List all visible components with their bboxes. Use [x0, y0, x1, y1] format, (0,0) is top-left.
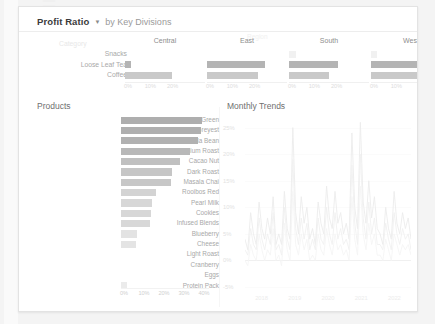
- product-row: Eggs: [19, 270, 219, 280]
- region-bar: [289, 51, 296, 58]
- product-row: Pearl Milk: [19, 198, 219, 208]
- dashboard-card: Profit Ratio ▼ by Key Divisions Region C…: [18, 6, 418, 312]
- product-row: Masala Chai: [19, 177, 219, 187]
- product-bar: [121, 199, 152, 206]
- trends-line-chart: [245, 117, 411, 287]
- region-bar: [125, 61, 131, 68]
- region-row-label: Loose Leaf Tea: [37, 60, 127, 71]
- product-bar-wrap: [121, 220, 209, 227]
- product-bar: [121, 210, 151, 217]
- product-bar-wrap: [121, 261, 209, 268]
- region-x-axis: 0%10%20%: [125, 83, 205, 93]
- trends-panel: Monthly Trends 25%20%15%10%5%0%-5% 20182…: [219, 101, 418, 312]
- region-row-labels: Snacks Loose Leaf Tea Coffee: [37, 49, 127, 81]
- region-column-west: West0%10%30%: [371, 37, 418, 99]
- trends-plot-area: [245, 117, 411, 287]
- region-bars: [207, 49, 287, 83]
- axis-tick-label: 0%: [120, 290, 128, 296]
- axis-tick-label: 10%: [145, 83, 156, 89]
- product-row: Cacao Nut: [19, 156, 219, 166]
- products-title: Products: [37, 101, 71, 111]
- axis-tick-label: 40%: [198, 290, 209, 296]
- product-row: Cheese: [19, 239, 219, 249]
- watermark-strip: [4, 0, 18, 324]
- trend-x-tick-label: 2021: [355, 295, 368, 301]
- product-row: Rooibos Red: [19, 187, 219, 197]
- products-x-axis: 0%10%20%30%40%: [121, 290, 213, 300]
- product-row: Infused Blends: [19, 218, 219, 228]
- product-row: Light Roast: [19, 249, 219, 259]
- product-bar-wrap: [121, 179, 209, 186]
- region-bar: [371, 51, 377, 58]
- axis-tick-label: 0%: [370, 83, 378, 89]
- axis-tick-label: 0%: [124, 83, 132, 89]
- dashboard-header: Profit Ratio ▼ by Key Divisions: [37, 16, 171, 27]
- product-bar: [121, 137, 198, 144]
- product-bar-wrap: [121, 148, 209, 155]
- region-x-axis: 0%10%30%: [371, 83, 418, 93]
- region-bar: [125, 72, 172, 79]
- product-bar-wrap: [121, 251, 209, 258]
- trend-y-tick-label: -5%: [223, 284, 233, 290]
- product-bar: [121, 158, 180, 165]
- trend-x-tick-label: 2022: [388, 295, 401, 301]
- products-axis-line: [121, 288, 209, 289]
- region-title: East: [207, 37, 287, 44]
- region-column-east: East0%10%20%: [207, 37, 287, 99]
- region-bar: [371, 72, 418, 79]
- product-bar-wrap: [121, 117, 209, 124]
- product-bar-wrap: [121, 137, 209, 144]
- product-bar-wrap: [121, 210, 209, 217]
- product-row: Vanilla Bean: [19, 136, 219, 146]
- trend-x-tick-label: 2018: [255, 295, 268, 301]
- axis-tick-label: 20%: [249, 83, 260, 89]
- trend-y-tick-label: 0%: [223, 257, 231, 263]
- product-bar: [121, 127, 201, 134]
- region-column-central: Central0%10%20%: [125, 37, 205, 99]
- caret-down-icon[interactable]: ▼: [94, 19, 100, 25]
- region-bar: [289, 72, 329, 79]
- page-subtitle: by Key Divisions: [105, 17, 171, 27]
- region-row-label: Snacks: [37, 49, 127, 60]
- trend-series-line: [245, 122, 411, 250]
- trends-title: Monthly Trends: [227, 101, 285, 111]
- product-bar-wrap: [121, 189, 209, 196]
- product-bar: [121, 220, 150, 227]
- region-bars: [371, 49, 418, 83]
- axis-tick-label: 0%: [206, 83, 214, 89]
- region-bar: [207, 72, 258, 79]
- product-bar-wrap: [121, 199, 209, 206]
- product-bar: [121, 241, 136, 248]
- product-bar: [121, 148, 190, 155]
- region-row-label: Coffee: [37, 70, 127, 81]
- product-bar-wrap: [121, 241, 209, 248]
- product-bar: [121, 179, 171, 186]
- product-row: Medium Roast: [19, 146, 219, 156]
- dashboard-page: PERFORMANCE ASSESSMENT Profit Ratio ▼ by…: [0, 0, 435, 324]
- header-divider: [19, 31, 418, 32]
- axis-tick-label: 0%: [288, 83, 296, 89]
- trend-y-tick-label: 5%: [223, 231, 231, 237]
- trend-y-tick-label: 10%: [223, 204, 235, 210]
- region-bars: [289, 49, 369, 83]
- product-row: Spring Green: [19, 115, 219, 125]
- axis-tick-label: 30%: [178, 290, 189, 296]
- product-row: Cookies: [19, 208, 219, 218]
- product-bar: [121, 168, 172, 175]
- page-title: Profit Ratio: [37, 16, 89, 27]
- region-bar: [289, 61, 338, 68]
- trend-x-tick-label: 2019: [288, 295, 301, 301]
- region-title: South: [289, 37, 369, 44]
- trend-x-tick-label: 2020: [322, 295, 335, 301]
- region-panel: Region Category Snacks Loose Leaf Tea Co…: [19, 33, 418, 99]
- product-bar-wrap: [121, 230, 209, 237]
- product-bar-wrap: [121, 158, 209, 165]
- product-bar-wrap: [121, 272, 209, 279]
- region-column-south: South0%10%20%: [289, 37, 369, 99]
- axis-tick-label: 10%: [138, 290, 149, 296]
- region-title: West: [371, 37, 418, 44]
- trend-gridline: [245, 287, 411, 288]
- products-bar-list: Spring GreenEarl GreyestVanilla BeanMedi…: [19, 115, 219, 291]
- category-header-label: Category: [59, 40, 87, 47]
- trend-y-tick-label: 25%: [223, 125, 235, 131]
